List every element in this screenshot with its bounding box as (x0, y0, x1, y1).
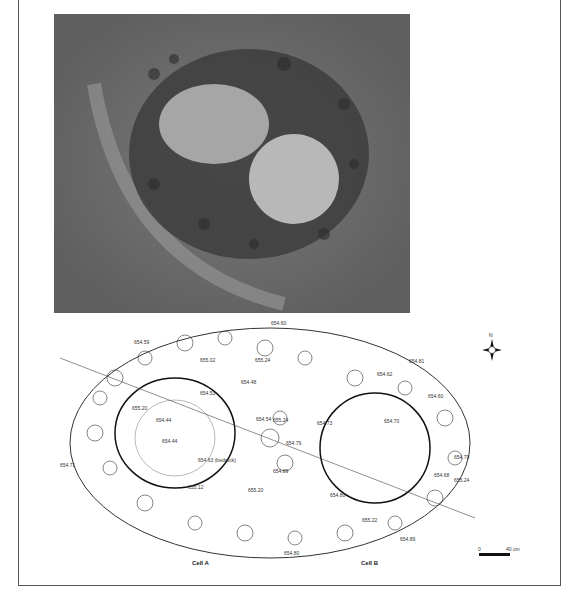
site-plan-drawing: 654.60 654.59 655.02 655.24 654.48 654.5… (55, 318, 525, 580)
cell-a-label: Cell A (192, 560, 209, 566)
elevation-label: 655.24 (273, 418, 288, 423)
elevation-label: 655.24 (255, 358, 270, 363)
elevation-label: 654.60 (428, 394, 443, 399)
elevation-label: 654.73 (317, 421, 332, 426)
scale-start: 0 (478, 546, 481, 552)
elevation-label: 654.80 (284, 551, 299, 556)
elevation-label: 654.89 (400, 537, 415, 542)
elevation-label: 654.44 (156, 418, 171, 423)
elevation-label: 655.24 (454, 478, 469, 483)
elevation-label: 655.12 (188, 485, 203, 490)
elevation-label: 655.20 (132, 406, 147, 411)
elevation-label: 654.60 (271, 321, 286, 326)
elevation-label: 654.48 (241, 380, 256, 385)
elevation-label: 654.62 (377, 372, 392, 377)
elevation-label: 654.68 (434, 473, 449, 478)
elevation-label: 654.89 (273, 469, 288, 474)
elevation-label: 654.81 (409, 359, 424, 364)
elevation-label: 654.54 (256, 417, 271, 422)
scale-bar: 0 40 cm (479, 546, 539, 560)
elevation-label: 654.80 (330, 493, 345, 498)
elevation-label: 654.63 (bedrock) (198, 458, 236, 463)
elevation-label: 654.79 (286, 441, 301, 446)
aerial-photograph (54, 14, 410, 313)
elevation-label: 654.71 (60, 463, 75, 468)
scale-end: 40 cm (506, 546, 520, 552)
elevation-label: 654.53 (200, 391, 215, 396)
elevation-label: 654.70 (384, 419, 399, 424)
elevation-label: 654.79 (454, 455, 469, 460)
elevation-label: 655.22 (362, 518, 377, 523)
cell-b-label: Cell B (361, 560, 378, 566)
elevation-label: 654.59 (134, 340, 149, 345)
elevation-label: 654.44 (162, 439, 177, 444)
elevation-label: 655.02 (200, 358, 215, 363)
elevation-label: 655.20 (248, 488, 263, 493)
north-arrow-icon (481, 337, 503, 363)
